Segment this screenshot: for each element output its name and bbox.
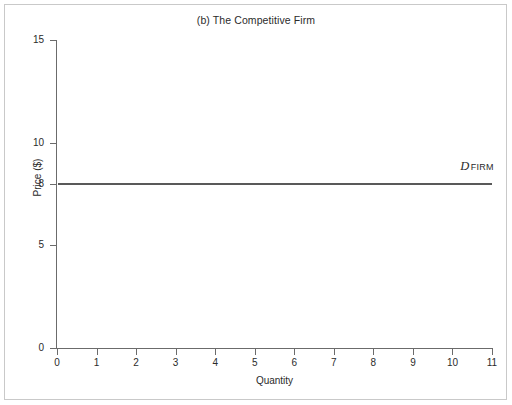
y-axis-line <box>56 40 57 349</box>
y-axis-tick-label: 0 <box>10 343 44 353</box>
y-axis-tick-mark <box>50 143 56 144</box>
x-axis-tick-mark <box>294 349 295 355</box>
demand-curve-line <box>58 183 492 185</box>
x-axis-tick-mark <box>215 349 216 355</box>
y-axis-tick-label: 5 <box>10 240 44 250</box>
x-axis-tick-label: 0 <box>42 357 72 368</box>
x-axis-tick-mark <box>334 349 335 355</box>
x-axis-tick-label: 10 <box>437 357 467 368</box>
x-axis-tick-mark <box>492 349 493 355</box>
x-axis-tick-label: 7 <box>319 357 349 368</box>
x-axis-tick-label: 3 <box>161 357 191 368</box>
y-axis-tick-mark <box>50 348 56 349</box>
x-axis-tick-label: 8 <box>358 357 388 368</box>
demand-symbol: D <box>460 159 469 173</box>
x-axis-tick-mark <box>57 349 58 355</box>
x-axis-tick-label: 1 <box>82 357 112 368</box>
x-axis-line <box>56 348 493 349</box>
figure-border <box>4 4 507 400</box>
x-axis-tick-mark <box>255 349 256 355</box>
x-axis-tick-label: 6 <box>279 357 309 368</box>
y-axis-tick-label: 15 <box>10 35 44 45</box>
x-axis-tick-label: 4 <box>200 357 230 368</box>
x-axis-tick-mark <box>136 349 137 355</box>
y-axis-title: Price ($) <box>32 143 43 213</box>
chart-figure: (b) The Competitive Firm 0581015 0123456… <box>0 0 512 405</box>
x-axis-tick-mark <box>373 349 374 355</box>
x-axis-title: Quantity <box>57 375 492 386</box>
demand-curve-label: DFIRM <box>460 159 493 174</box>
y-axis-tick-mark <box>50 184 56 185</box>
chart-title: (b) The Competitive Firm <box>0 14 512 26</box>
x-axis-tick-label: 5 <box>240 357 270 368</box>
x-axis-tick-mark <box>176 349 177 355</box>
demand-subscript: FIRM <box>471 162 494 172</box>
x-axis-tick-mark <box>452 349 453 355</box>
x-axis-tick-mark <box>97 349 98 355</box>
y-axis-tick-mark <box>50 245 56 246</box>
x-axis-tick-label: 11 <box>477 357 507 368</box>
x-axis-tick-label: 9 <box>398 357 428 368</box>
x-axis-tick-mark <box>413 349 414 355</box>
x-axis-tick-label: 2 <box>121 357 151 368</box>
y-axis-tick-mark <box>50 40 56 41</box>
